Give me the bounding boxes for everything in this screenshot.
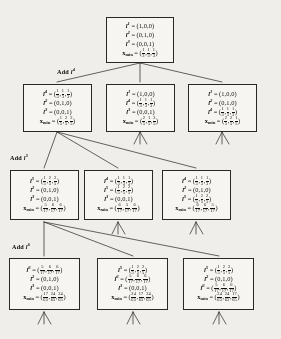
node-row: xmin=(2465,2465,1765) xyxy=(197,293,239,302)
row-symbol: xmin xyxy=(23,205,34,211)
fraction: 15 xyxy=(148,116,151,126)
row-symbol: xmin xyxy=(40,118,51,124)
equals-sign: = xyxy=(47,109,54,115)
fraction: 517 xyxy=(210,203,215,213)
equals-sign: = xyxy=(47,91,54,97)
equals-sign: = xyxy=(130,41,137,47)
equals-sign: = xyxy=(212,91,219,97)
fraction: 13 xyxy=(195,176,198,186)
fraction: 15 xyxy=(43,176,46,186)
equals-sign: = xyxy=(215,118,222,124)
row-value: (517,617,617) xyxy=(41,203,66,213)
fraction: 1765 xyxy=(139,292,144,302)
equals-sign: = xyxy=(34,196,41,202)
fraction: 617 xyxy=(203,203,208,213)
fraction: 13 xyxy=(56,89,59,99)
node-row: l2=(0,1,0) xyxy=(30,186,59,195)
fraction: 617 xyxy=(58,203,63,213)
row-value: (25,25,15) xyxy=(222,116,240,126)
row-value: (0,1,0) xyxy=(41,187,59,193)
row-value: (15,25,25) xyxy=(115,185,133,195)
equals-sign: = xyxy=(208,294,215,300)
equals-sign: = xyxy=(212,109,219,115)
row-value: (617,617,517) xyxy=(193,203,218,213)
fraction: 25 xyxy=(49,176,52,186)
node-row: xmin=(13,13,13) xyxy=(122,49,158,58)
fraction: 617 xyxy=(55,265,60,275)
branch-label-add-l6-text: Add l6 xyxy=(12,243,30,250)
fraction: 15 xyxy=(59,116,62,126)
equals-sign: = xyxy=(130,109,137,115)
fraction: 25 xyxy=(228,265,231,275)
row-symbol: xmin xyxy=(97,205,108,211)
equals-sign: = xyxy=(186,187,193,193)
row-value: (0,0,1) xyxy=(137,41,155,47)
equals-sign: = xyxy=(122,294,129,300)
fraction: 1765 xyxy=(232,292,237,302)
fraction: 517 xyxy=(43,203,48,213)
fraction: 1765 xyxy=(43,292,48,302)
fraction: 25 xyxy=(70,116,73,126)
row-value: (15,25,25) xyxy=(57,116,75,126)
equals-sign: = xyxy=(108,196,115,202)
node-row: l2=(0,1,0) xyxy=(43,99,72,108)
fraction: 15 xyxy=(235,116,238,126)
equals-sign: = xyxy=(31,267,38,273)
fraction: 13 xyxy=(62,89,65,99)
tree-node-level3-middle[interactable]: l4=(13,13,13)l5=(15,25,25)l3=(0,0,1)xmin… xyxy=(84,170,153,220)
tree-node-level3-right[interactable]: l4=(13,13,13)l2=(0,1,0)l5=(15,25,25)xmin… xyxy=(162,170,231,220)
row-value: (2465,2465,1765) xyxy=(215,292,240,302)
equals-sign: = xyxy=(130,32,137,38)
node-row: xmin=(517,617,617) xyxy=(23,204,65,213)
fraction: 13 xyxy=(201,176,204,186)
row-value: (0,1,0) xyxy=(137,32,155,38)
equals-sign: = xyxy=(133,50,140,56)
fraction: 617 xyxy=(51,203,56,213)
row-value: (13,13,13) xyxy=(193,176,211,186)
equals-sign: = xyxy=(34,178,41,184)
node-row: l1=(1,0,0) xyxy=(208,90,237,99)
row-value: (13,13,13) xyxy=(139,48,157,58)
row-symbol: xmin xyxy=(123,118,134,124)
tree-node-level3-left[interactable]: l5=(15,25,25)l2=(0,1,0)l3=(0,0,1)xmin=(5… xyxy=(10,170,79,220)
row-value: (0,1,0) xyxy=(54,100,72,106)
tree-node-level2-middle[interactable]: l1=(1,0,0)l4=(13,13,13)l3=(0,0,1)xmin=(2… xyxy=(106,84,175,132)
equals-sign: = xyxy=(212,100,219,106)
equals-sign: = xyxy=(122,267,129,273)
fraction: 13 xyxy=(145,98,148,108)
equals-sign: = xyxy=(130,91,137,97)
row-value: (1765,2465,2465) xyxy=(41,292,66,302)
fraction: 25 xyxy=(224,116,227,126)
tree-node-level4-middle[interactable]: l5=(15,25,25)l6=(517,617,617)l3=(0,0,1)x… xyxy=(97,258,168,310)
fraction: 13 xyxy=(67,89,70,99)
fraction: 617 xyxy=(195,203,200,213)
tree-node-root[interactable]: l1=(1,0,0)l2=(0,1,0)l3=(0,0,1)xmin=(13,1… xyxy=(106,17,174,63)
row-value: (2465,1765,2465) xyxy=(129,292,154,302)
fraction: 617 xyxy=(117,203,122,213)
fraction: 13 xyxy=(139,98,142,108)
equals-sign: = xyxy=(34,205,41,211)
branch-label-add-l4-text: Add l4 xyxy=(57,68,75,75)
fraction: 25 xyxy=(230,116,233,126)
node-row: xmin=(617,617,517) xyxy=(175,204,217,213)
tree-node-level4-right[interactable]: l5=(15,25,25)l2=(0,1,0)l6=(517,617,617)x… xyxy=(183,258,254,310)
fraction: 25 xyxy=(123,185,126,195)
row-value: (0,0,1) xyxy=(54,109,72,115)
fraction: 517 xyxy=(128,274,133,284)
fraction: 13 xyxy=(150,98,153,108)
tree-node-level2-right[interactable]: l1=(1,0,0)l2=(0,1,0)l4=(13,13,13)xmin=(2… xyxy=(188,84,257,132)
fraction: 617 xyxy=(132,203,137,213)
row-symbol: xmin xyxy=(23,294,34,300)
fraction: 13 xyxy=(206,176,209,186)
row-symbol: xmin xyxy=(205,118,216,124)
fraction: 25 xyxy=(223,265,226,275)
row-value: (15,25,25) xyxy=(41,176,59,186)
node-row: xmin=(617,517,617) xyxy=(97,204,139,213)
fraction: 25 xyxy=(153,116,156,126)
fraction: 617 xyxy=(47,265,52,275)
fraction: 2465 xyxy=(58,292,63,302)
equals-sign: = xyxy=(50,118,57,124)
tree-node-level4-left[interactable]: l6=(517,617,617)l2=(0,1,0)l3=(0,0,1)xmin… xyxy=(9,258,80,310)
tree-node-level2-left[interactable]: l4=(13,13,13)l2=(0,1,0)l3=(0,0,1)xmin=(1… xyxy=(23,84,92,132)
fraction: 517 xyxy=(125,203,130,213)
